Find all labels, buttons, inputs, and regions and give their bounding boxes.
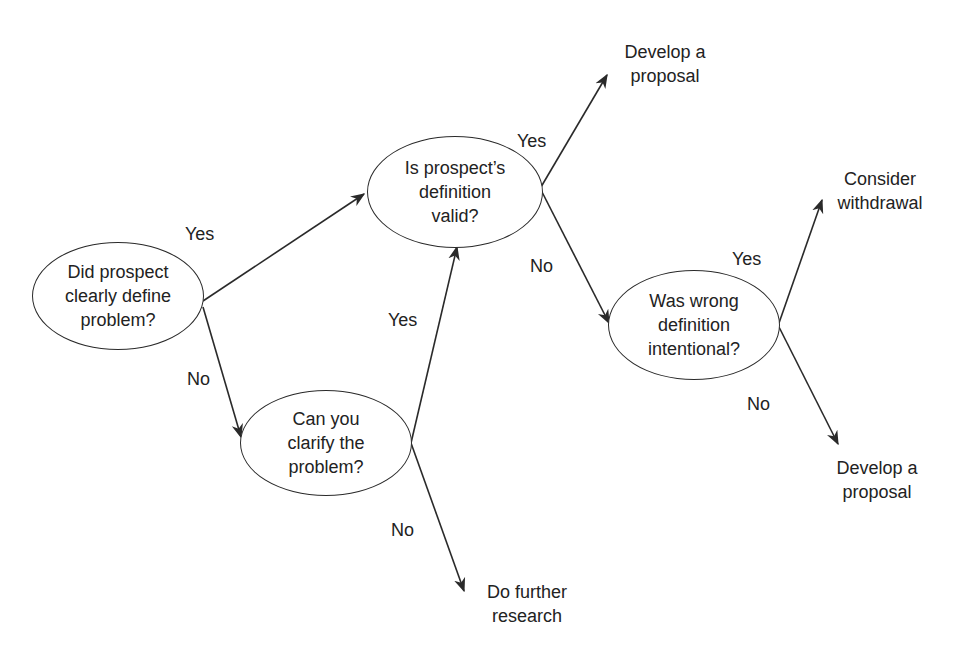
edge-label-intentional-no: No <box>747 394 770 414</box>
node-text: clarify the <box>287 431 364 455</box>
node-text: Was wrong <box>649 289 738 313</box>
outcome-do-further-research: Do further research <box>472 580 582 628</box>
outcome-develop-proposal-bottom: Develop a proposal <box>822 456 932 504</box>
edge-valid-yes <box>541 75 607 187</box>
edge-intentional-yes <box>779 200 822 323</box>
edge-intentional-no <box>779 327 838 444</box>
edge-label-intentional-yes: Yes <box>732 249 761 269</box>
outcome-text: Develop a <box>822 456 932 480</box>
decision-wrong-definition-intentional: Was wrong definition intentional? <box>608 270 780 380</box>
outcome-text: withdrawal <box>825 191 935 215</box>
edge-define-yes <box>203 194 364 301</box>
edge-label-clarify-yes: Yes <box>388 310 417 330</box>
decision-clarify-problem: Can you clarify the problem? <box>240 390 412 496</box>
edge-clarify-no <box>411 443 464 591</box>
edge-clarify-yes <box>411 247 457 443</box>
node-text: Can you <box>292 407 359 431</box>
node-text: problem? <box>288 455 363 479</box>
node-text: Is prospect’s <box>405 156 506 180</box>
edge-label-clarify-no: No <box>391 520 414 540</box>
decision-definition-valid: Is prospect’s definition valid? <box>367 136 543 248</box>
node-text: Did prospect <box>67 260 168 284</box>
edge-label-valid-no: No <box>530 256 553 276</box>
edge-label-define-yes: Yes <box>185 224 214 244</box>
node-text: problem? <box>80 308 155 332</box>
node-text: intentional? <box>648 337 740 361</box>
node-text: valid? <box>431 204 478 228</box>
outcome-text: Consider <box>825 167 935 191</box>
outcome-text: Do further <box>472 580 582 604</box>
edge-label-valid-yes: Yes <box>517 131 546 151</box>
node-text: definition <box>658 313 730 337</box>
edge-label-define-no: No <box>187 369 210 389</box>
outcome-develop-proposal-top: Develop a proposal <box>610 40 720 88</box>
decision-define-problem: Did prospect clearly define problem? <box>32 242 204 350</box>
node-text: clearly define <box>65 284 171 308</box>
outcome-consider-withdrawal: Consider withdrawal <box>825 167 935 215</box>
outcome-text: proposal <box>610 64 720 88</box>
outcome-text: research <box>472 604 582 628</box>
node-text: definition <box>419 180 491 204</box>
outcome-text: proposal <box>822 480 932 504</box>
outcome-text: Develop a <box>610 40 720 64</box>
